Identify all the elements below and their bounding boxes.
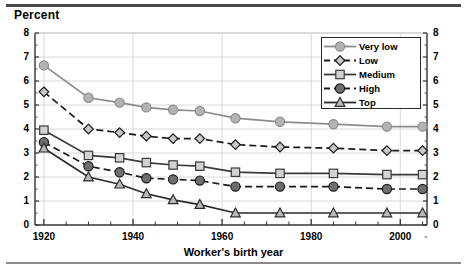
y-tick-left-2: 2: [11, 171, 29, 182]
y-tick-right-5: 5: [433, 99, 451, 110]
legend-key-icon: [322, 82, 358, 95]
y-tick-right-6: 6: [433, 75, 451, 86]
legend-label: Medium: [359, 69, 395, 80]
y-tick-right-1: 1: [433, 195, 451, 206]
legend-label: Low: [359, 55, 378, 66]
y-tick-left-7: 7: [11, 51, 29, 62]
x-tick-1920: 1920: [24, 231, 64, 242]
legend-item-very-low[interactable]: Very low: [322, 40, 420, 53]
y-tick-left-5: 5: [11, 99, 29, 110]
x-tick-1960: 1960: [202, 231, 242, 242]
y-tick-left-8: 8: [11, 27, 29, 38]
y-tick-right-4: 4: [433, 123, 451, 134]
legend-item-top[interactable]: Top: [322, 96, 420, 109]
x-tick-1940: 1940: [113, 231, 153, 242]
legend-item-medium[interactable]: Medium: [322, 68, 420, 81]
legend-key-icon: [322, 54, 358, 67]
y-tick-left-1: 1: [11, 195, 29, 206]
legend-label: Top: [359, 97, 376, 108]
x-tick-2000: 2000: [380, 231, 420, 242]
legend-key-icon: [322, 68, 358, 81]
y-tick-left-0: 0: [11, 219, 29, 230]
y-tick-right-2: 2: [433, 171, 451, 182]
y-tick-right-0: 0: [433, 219, 451, 230]
y-tick-right-8: 8: [433, 27, 451, 38]
y-tick-left-6: 6: [11, 75, 29, 86]
legend-item-high[interactable]: High: [322, 82, 420, 95]
legend-label: Very low: [359, 41, 398, 52]
legend-key-icon: [322, 40, 358, 53]
chart-legend: Very lowLowMediumHighTop: [321, 37, 421, 109]
legend-label: High: [359, 83, 380, 94]
x-tick-1980: 1980: [291, 231, 331, 242]
y-tick-right-7: 7: [433, 51, 451, 62]
y-tick-left-4: 4: [11, 123, 29, 134]
y-tick-right-3: 3: [433, 147, 451, 158]
y-tick-left-3: 3: [11, 147, 29, 158]
legend-key-icon: [322, 96, 358, 109]
legend-item-low[interactable]: Low: [322, 54, 420, 67]
chart-figure: Percent Worker's birth year 012345678 01…: [0, 0, 467, 271]
